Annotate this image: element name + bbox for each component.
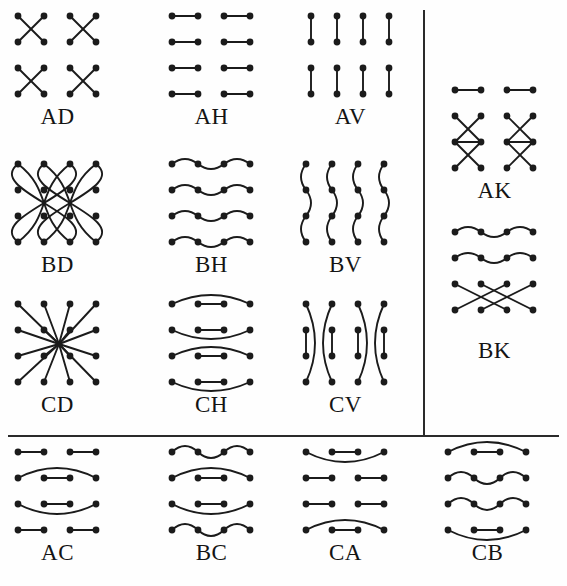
node-dot [221, 187, 228, 194]
node-dot [381, 501, 388, 508]
node-dot [67, 379, 74, 386]
node-dot [195, 187, 202, 194]
node-dot [247, 39, 254, 46]
node-dot [169, 161, 176, 168]
node-dot [247, 449, 254, 456]
node-dot [355, 353, 362, 360]
pattern-bh [150, 142, 272, 264]
node-dot [452, 255, 459, 262]
node-dot [15, 39, 22, 46]
node-dot [221, 501, 228, 508]
node-dot [445, 527, 452, 534]
node-dot [530, 281, 537, 288]
node-dot [247, 239, 254, 246]
node-dot [221, 327, 228, 334]
node-dot [329, 213, 336, 220]
node-dot [67, 475, 74, 482]
node-dot [93, 65, 100, 72]
node-dot [478, 281, 485, 288]
node-dot [329, 527, 336, 534]
node-dot [195, 239, 202, 246]
node-dot [93, 91, 100, 98]
node-dot [381, 301, 388, 308]
node-dot [452, 229, 459, 236]
pattern-cb [426, 430, 548, 552]
node-dot [355, 327, 362, 334]
node-dot [504, 87, 511, 94]
node-dot [169, 379, 176, 386]
node-dot [303, 379, 310, 386]
pattern-bv [284, 142, 406, 264]
node-dot [41, 501, 48, 508]
node-dot [67, 39, 74, 46]
node-dot [221, 239, 228, 246]
node-dot [523, 527, 530, 534]
node-dot [247, 65, 254, 72]
node-dot [329, 301, 336, 308]
node-dot [169, 187, 176, 194]
node-dot [41, 353, 48, 360]
node-dot [41, 91, 48, 98]
node-dot [329, 161, 336, 168]
node-dot [247, 327, 254, 334]
panel-caption-cv: CV [306, 392, 385, 418]
node-dot [15, 501, 22, 508]
node-dot [247, 301, 254, 308]
node-dot [452, 281, 459, 288]
node-dot [445, 501, 452, 508]
node-dot [169, 301, 176, 308]
node-dot [530, 307, 537, 314]
node-dot [530, 165, 537, 172]
node-dot [67, 187, 74, 194]
node-dot [303, 327, 310, 334]
node-dot [329, 379, 336, 386]
node-dot [303, 239, 310, 246]
node-dot [504, 229, 511, 236]
panel-caption-cd: CD [18, 392, 97, 418]
pattern-cd [0, 282, 118, 404]
node-dot [221, 161, 228, 168]
node-dot [381, 449, 388, 456]
vertical-divider [423, 10, 425, 435]
node-dot [93, 353, 100, 360]
node-dot [221, 213, 228, 220]
panel-ah: AH [172, 16, 251, 95]
node-dot [93, 161, 100, 168]
panel-ca: CA [306, 452, 385, 531]
pattern-ah [150, 0, 272, 116]
node-dot [478, 307, 485, 314]
node-dot [67, 213, 74, 220]
node-dot [308, 39, 315, 46]
node-dot [381, 213, 388, 220]
pattern-cv [284, 282, 406, 404]
node-dot [303, 501, 310, 508]
node-dot [221, 91, 228, 98]
node-dot [334, 39, 341, 46]
panel-caption-bv: BV [306, 252, 385, 278]
node-dot [530, 229, 537, 236]
node-dot [15, 475, 22, 482]
node-dot [221, 301, 228, 308]
node-dot [15, 187, 22, 194]
node-dot [93, 475, 100, 482]
node-dot [497, 501, 504, 508]
node-dot [41, 213, 48, 220]
node-dot [221, 13, 228, 20]
node-dot [221, 449, 228, 456]
node-dot [471, 449, 478, 456]
node-dot [504, 165, 511, 172]
node-dot [504, 307, 511, 314]
node-dot [15, 353, 22, 360]
node-dot [195, 39, 202, 46]
node-dot [504, 113, 511, 120]
node-dot [308, 91, 315, 98]
node-dot [386, 65, 393, 72]
panel-caption-bd: BD [18, 252, 97, 278]
panel-ak: AK [455, 90, 534, 169]
node-dot [169, 13, 176, 20]
node-dot [360, 39, 367, 46]
node-dot [67, 65, 74, 72]
node-dot [355, 187, 362, 194]
pattern-ch [150, 282, 272, 404]
node-dot [360, 13, 367, 20]
